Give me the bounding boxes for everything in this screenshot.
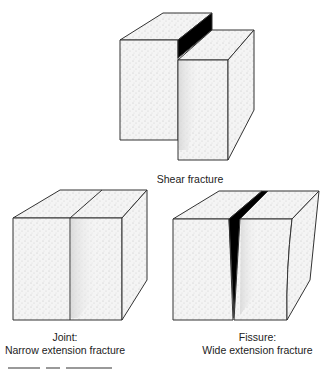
joint-front-face <box>13 218 122 320</box>
fissure-block <box>173 191 319 320</box>
shear-left-front-face <box>120 40 178 140</box>
shear-fracture-block <box>120 13 254 160</box>
label-line: Narrow extension fracture <box>0 344 130 357</box>
label-line: Shear fracture <box>140 173 240 186</box>
figure-caption-clipped <box>8 367 118 371</box>
joint-label: Joint: Narrow extension fracture <box>0 331 130 357</box>
label-line: Joint: <box>0 331 130 344</box>
label-line: Wide extension fracture <box>190 344 325 357</box>
joint-block <box>13 190 147 320</box>
fissure-label: Fissure: Wide extension fracture <box>190 331 325 357</box>
shear-fracture-label: Shear fracture <box>140 173 240 186</box>
fissure-left-front-face <box>173 219 233 320</box>
label-line: Fissure: <box>190 331 325 344</box>
